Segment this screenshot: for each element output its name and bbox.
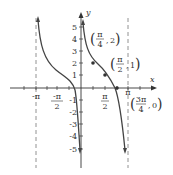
- svg-text:,: ,: [106, 36, 109, 45]
- annotation-3pi-4: ( 3π 4 , 0 ): [130, 95, 162, 114]
- svg-text:(: (: [90, 31, 95, 47]
- y-axis-arrow-icon: [79, 12, 84, 18]
- svg-text:2: 2: [117, 65, 122, 74]
- svg-text:): ): [115, 31, 120, 47]
- y-tick-neg3: -3: [69, 120, 77, 129]
- svg-text:,: ,: [148, 101, 151, 110]
- y-axis-label: y: [85, 8, 91, 17]
- y-tick-2: 2: [72, 59, 77, 68]
- svg-text:(: (: [130, 96, 135, 112]
- svg-text:,: ,: [126, 61, 129, 70]
- point-pi-2: [103, 73, 107, 77]
- cotangent-graph: y x 5 4 3 2 1 -1 -2 -3 -4 -5 -π -π 2 π 2…: [0, 0, 173, 175]
- arrow-down-icon: [123, 148, 127, 154]
- x-tick-half-pi-num: π: [102, 92, 107, 101]
- y-tick-3: 3: [72, 47, 77, 56]
- point-3pi-4: [115, 86, 119, 90]
- annotation-pi-4: ( π 4 , 2 ): [90, 30, 120, 49]
- arrow-up-icon: [36, 16, 40, 22]
- svg-text:3π: 3π: [136, 95, 146, 104]
- y-tick-neg5: -5: [69, 145, 77, 154]
- annotation-pi-2: ( π 2 , 1 ): [110, 55, 140, 74]
- y-tick-neg4: -4: [69, 132, 77, 141]
- svg-text:4: 4: [97, 40, 102, 49]
- x-axis-label: x: [150, 75, 155, 84]
- y-tick-4: 4: [72, 35, 77, 44]
- y-tick-1: 1: [72, 71, 77, 80]
- svg-text:(: (: [110, 56, 115, 72]
- x-tick-neg-half-pi-den: 2: [54, 102, 59, 111]
- y-tick-5: 5: [72, 23, 77, 32]
- y-tick-neg1: -1: [69, 96, 77, 105]
- svg-text:π: π: [97, 30, 102, 39]
- svg-text:4: 4: [138, 105, 143, 114]
- x-axis-arrow-icon: [151, 86, 157, 91]
- y-tick-neg2: -2: [69, 108, 77, 117]
- point-pi-4: [91, 61, 95, 65]
- svg-text:): ): [157, 96, 162, 112]
- arrow-up-icon: [81, 19, 85, 25]
- x-tick-neg-pi: -π: [32, 92, 40, 101]
- x-tick-neg-half-pi-num: -π: [53, 92, 61, 101]
- svg-text:π: π: [117, 55, 122, 64]
- x-tick-half-pi-den: 2: [102, 102, 107, 111]
- svg-text:): ): [135, 56, 140, 72]
